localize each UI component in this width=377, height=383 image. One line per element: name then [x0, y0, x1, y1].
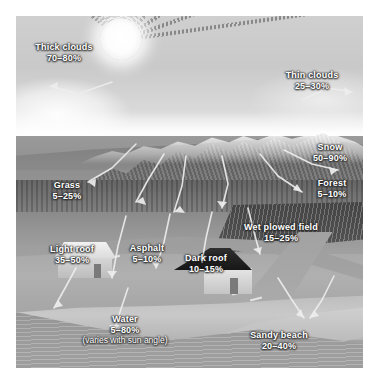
cropped-caption-remnant [14, 0, 244, 8]
label-title: Thin clouds [276, 70, 348, 81]
label-asphalt: Asphalt5–10% [118, 243, 176, 264]
label-value: 50–90% [302, 153, 358, 164]
label-snow: Snow50–90% [302, 142, 358, 163]
label-thin-clouds: Thin clouds25–30% [276, 70, 348, 91]
label-title: Sandy beach [238, 330, 320, 341]
label-value: 5–80% [62, 325, 188, 336]
label-title: Light roof [40, 244, 104, 255]
label-value: 10–15% [174, 264, 238, 275]
label-value: 70–80% [26, 53, 102, 64]
label-title: Forest [304, 178, 360, 189]
figure-root: Thick clouds70–80%Thin clouds25–30%Snow5… [0, 0, 377, 383]
label-dark-roof: Dark roof10–15% [174, 253, 238, 274]
label-title: Dark roof [174, 253, 238, 264]
label-wet-plowed-field: Wet plowed field15–25% [234, 222, 328, 243]
label-value: 5–10% [118, 254, 176, 265]
label-forest: Forest5–10% [304, 178, 360, 199]
label-title: Wet plowed field [234, 222, 328, 233]
label-title: Snow [302, 142, 358, 153]
label-thick-clouds: Thick clouds70–80% [26, 42, 102, 63]
label-value: 5–25% [38, 191, 96, 202]
label-title: Grass [38, 180, 96, 191]
label-grass: Grass5–25% [38, 180, 96, 201]
label-title: Thick clouds [26, 42, 102, 53]
label-water: Water5–80%(varies with sun angle) [62, 314, 188, 346]
label-value: 15–25% [234, 233, 328, 244]
label-sandy-beach: Sandy beach20–40% [238, 330, 320, 351]
label-title: Water [62, 314, 188, 325]
label-light-roof: Light roof35–50% [40, 244, 104, 265]
label-title: Asphalt [118, 243, 176, 254]
label-value: 35–50% [40, 255, 104, 266]
label-value: 20–40% [238, 341, 320, 352]
albedo-illustration: Thick clouds70–80%Thin clouds25–30%Snow5… [16, 16, 363, 368]
label-value: 25–30% [276, 81, 348, 92]
cropped-caption-remnant-right [256, 0, 296, 8]
label-note: (varies with sun angle) [62, 335, 188, 346]
label-value: 5–10% [304, 189, 360, 200]
